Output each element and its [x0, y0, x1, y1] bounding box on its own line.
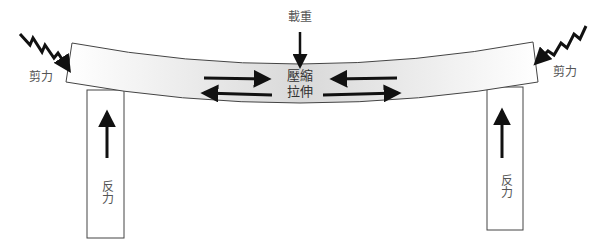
left-support: [87, 90, 124, 238]
right-support-block: [487, 87, 523, 230]
reaction-right-label: 反力: [499, 174, 511, 198]
tension-right-arrow-icon: [323, 93, 398, 95]
tension-label: 拉伸: [287, 84, 313, 100]
compression-right-arrow-icon: [333, 78, 397, 79]
tension-left-arrow-icon: [204, 93, 272, 95]
diagram-canvas: [0, 0, 605, 250]
reaction-left-label: 反力: [100, 180, 112, 204]
right-support: [487, 87, 523, 230]
shear-right-label: 剪力: [553, 65, 577, 79]
compression-left-arrow-icon: [204, 78, 268, 79]
left-support-block: [87, 90, 124, 238]
shear-right-zigzag-icon: [536, 26, 586, 63]
shear-left-zigzag-icon: [20, 34, 69, 70]
beam-bending-diagram: 載重 剪力 剪力 壓縮 拉伸 反力 反力: [0, 0, 605, 250]
load-label: 載重: [288, 10, 312, 24]
shear-left-label: 剪力: [29, 70, 53, 84]
compression-label: 壓縮: [287, 68, 313, 84]
stress-labels: 壓縮 拉伸: [287, 68, 313, 100]
